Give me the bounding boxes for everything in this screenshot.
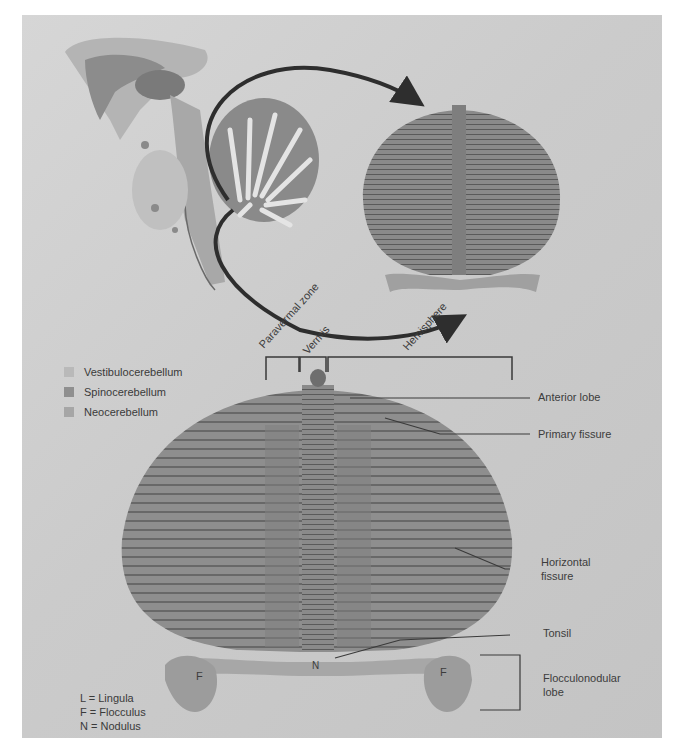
sagittal-brain-icon [65, 38, 319, 290]
horizontal-fissure-label-2: fissure [541, 570, 573, 583]
small-cerebellum-icon [363, 105, 560, 292]
legend-spinocerebellum: Spinocerebellum [64, 384, 166, 400]
legend-label: Neocerebellum [84, 406, 158, 418]
abbr-nodulus: N = Nodulus [80, 719, 141, 733]
legend-swatch [64, 407, 74, 417]
abbr-flocculus: F = Flocculus [80, 705, 146, 719]
legend-neocerebellum: Neocerebellum [64, 404, 158, 420]
zone-brackets [266, 357, 512, 380]
legend-label: Vestibulocerebellum [84, 366, 182, 378]
anterior-lobe-label: Anterior lobe [538, 391, 600, 404]
abbr-lingula: L = Lingula [80, 691, 134, 705]
primary-fissure-label: Primary fissure [538, 428, 611, 441]
legend-swatch [64, 367, 74, 377]
horizontal-fissure-label-1: Horizontal [541, 556, 591, 569]
legend-vestibulocerebellum: Vestibulocerebellum [64, 364, 182, 380]
left-flocculus-mark: F [196, 670, 203, 683]
legend-swatch [64, 387, 74, 397]
right-flocculus-mark: F [440, 666, 447, 679]
flocculonodular-label-1: Flocculonodular [543, 672, 621, 685]
nodulus-mark: N [312, 659, 319, 672]
tonsil-label: Tonsil [543, 627, 571, 640]
legend-label: Spinocerebellum [84, 386, 166, 398]
flocculonodular-label-2: lobe [543, 686, 564, 699]
